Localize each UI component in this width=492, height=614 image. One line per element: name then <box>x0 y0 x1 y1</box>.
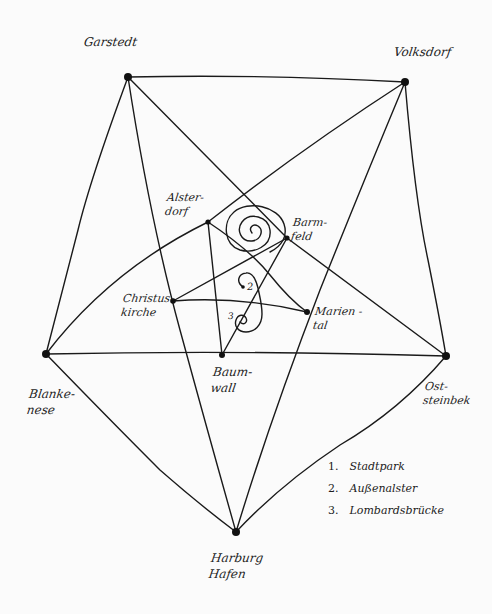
legend-item-stadtpark: 1. Stadtpark <box>328 456 444 478</box>
label-oststeinbek: Ost- steinbek <box>422 380 473 408</box>
spiral-stadtpark <box>226 206 285 252</box>
node-blankenese <box>42 350 50 358</box>
legend: 1. Stadtpark 2. Außenalster 3. Lombardsb… <box>328 456 444 522</box>
node-barmbek <box>284 235 289 240</box>
legend-number: 2. <box>328 478 346 500</box>
label-barmbek: Barm- feld <box>290 216 328 244</box>
edge-blankenese-harburg <box>46 354 236 532</box>
legend-text: Außenalster <box>350 482 418 495</box>
node-harburg <box>232 528 240 536</box>
label-harburg: Harburg Hafen <box>208 550 265 582</box>
label-mariental: Marien - tal <box>312 305 363 333</box>
node-oststeinbek <box>442 352 450 360</box>
node-mariental <box>304 309 310 315</box>
label-christuskirche: Christus- kirche <box>120 292 175 320</box>
edge-volksdorf-oststeinbek <box>405 82 446 356</box>
edge-blankenese-oststeinbek <box>46 352 446 356</box>
node-baumwall <box>219 352 225 358</box>
legend-text: Lombardsbrücke <box>350 504 445 517</box>
node-volksdorf <box>401 78 409 86</box>
label-baumwall: Baum- wall <box>210 364 254 396</box>
node-alsterdorf <box>205 219 210 224</box>
legend-text: Stadtpark <box>350 460 406 473</box>
edge-garstedt-blankenese <box>46 77 128 354</box>
legend-number: 1. <box>328 456 346 478</box>
node-marker-2 <box>241 285 245 289</box>
legend-item-lombardsbruecke: 3. Lombardsbrücke <box>328 500 444 522</box>
label-volksdorf: Volksdorf <box>393 44 452 60</box>
edge-garstedt-volksdorf <box>128 76 405 82</box>
node-garstedt <box>124 73 132 81</box>
edge-christuskirche-mariental <box>173 300 307 312</box>
legend-number: 3. <box>328 500 346 522</box>
label-alsterdorf: Alster- dorf <box>164 191 205 219</box>
label-garstedt: Garstedt <box>83 34 138 50</box>
edge-alsterdorf-baumwall <box>208 222 222 355</box>
legend-item-aussenalster: 2. Außenalster <box>328 478 444 500</box>
label-blankenese: Blanke- nese <box>26 386 76 418</box>
